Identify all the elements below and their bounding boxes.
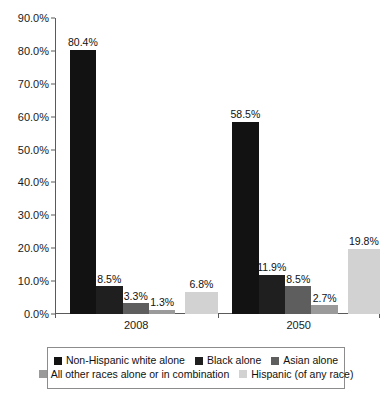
legend-row: All other races alone or in combinationH…	[55, 369, 337, 381]
legend-row: Non-Hispanic white aloneBlack aloneAsian…	[55, 355, 337, 367]
chart-legend: Non-Hispanic white aloneBlack aloneAsian…	[47, 347, 345, 389]
bar[interactable]: 2.7%	[311, 305, 337, 314]
y-tick-label: 50.0%	[18, 144, 55, 155]
y-tick-label: 90.0%	[18, 13, 55, 24]
bar-value-label: 80.4%	[68, 37, 98, 48]
bar-value-label: 58.5%	[230, 109, 260, 120]
legend-item[interactable]: Asian alone	[271, 355, 338, 367]
y-tick-label: 10.0%	[18, 276, 55, 287]
bar-value-label: 1.3%	[150, 297, 174, 308]
bar-slot: 1.3%	[149, 18, 175, 314]
legend-item[interactable]: Hispanic (of any race)	[239, 369, 353, 381]
x-tick-mark	[55, 314, 56, 318]
bar-value-label: 11.9%	[257, 262, 286, 273]
bar-value-label: 8.5%	[286, 274, 310, 285]
bar-chart: 90.0%80.0%70.0%60.0%50.0%40.0%30.0%20.0%…	[0, 0, 392, 407]
y-tick-label: 40.0%	[18, 177, 55, 188]
x-category-label-2050: 2050	[218, 314, 381, 336]
bar[interactable]: 8.5%	[96, 286, 122, 314]
bar-slot: 11.9%	[259, 18, 285, 314]
bar[interactable]: 80.4%	[70, 50, 96, 314]
y-tick-label: 70.0%	[18, 78, 55, 89]
bar-value-label: 6.8%	[189, 279, 213, 290]
legend-item[interactable]: All other races alone or in combination	[39, 369, 230, 381]
x-category-label-2008: 2008	[55, 314, 218, 336]
bar-slot: 8.5%	[285, 18, 311, 314]
legend-label: All other races alone or in combination	[51, 369, 230, 381]
bar-groups: 80.4%8.5%3.3%1.3%6.8%58.5%11.9%8.5%2.7%1…	[55, 18, 380, 314]
bar-slot: 19.8%	[348, 18, 380, 314]
bar-slot: 8.5%	[96, 18, 122, 314]
y-tick-label: 20.0%	[18, 243, 55, 254]
legend-label: Non-Hispanic white alone	[66, 355, 185, 367]
bar-value-label: 8.5%	[97, 274, 121, 285]
bar-slot: 6.8%	[185, 18, 217, 314]
bar[interactable]: 8.5%	[285, 286, 311, 314]
bar[interactable]: 6.8%	[185, 292, 217, 314]
legend-swatch-icon	[39, 370, 47, 378]
x-axis-categories: 20082050	[55, 314, 380, 336]
bar-slot: 58.5%	[232, 18, 258, 314]
bar-value-label: 19.8%	[349, 236, 379, 247]
bar[interactable]: 11.9%	[259, 275, 285, 314]
legend-item[interactable]: Non-Hispanic white alone	[54, 355, 185, 367]
legend-swatch-icon	[239, 370, 247, 378]
y-tick-label: 60.0%	[18, 111, 55, 122]
bar-slot: 2.7%	[311, 18, 337, 314]
bar-value-label: 2.7%	[313, 293, 337, 304]
bar-slot: 3.3%	[123, 18, 149, 314]
bar-value-label: 3.3%	[124, 291, 148, 302]
y-tick-label: 30.0%	[18, 210, 55, 221]
legend-item[interactable]: Black alone	[195, 355, 261, 367]
bar-group-2008: 80.4%8.5%3.3%1.3%6.8%	[55, 18, 218, 314]
legend-swatch-icon	[195, 357, 203, 365]
legend-label: Black alone	[207, 355, 261, 367]
x-tick-mark	[218, 314, 219, 318]
bar-group-2050: 58.5%11.9%8.5%2.7%19.8%	[218, 18, 381, 314]
bar[interactable]: 58.5%	[232, 122, 258, 314]
bar-slot: 80.4%	[70, 18, 96, 314]
legend-label: Hispanic (of any race)	[251, 369, 353, 381]
bar[interactable]: 19.8%	[348, 249, 380, 314]
legend-label: Asian alone	[283, 355, 338, 367]
legend-swatch-icon	[271, 357, 279, 365]
y-tick-label: 80.0%	[18, 45, 55, 56]
x-tick-mark	[379, 314, 380, 318]
legend-swatch-icon	[54, 357, 62, 365]
bar[interactable]: 3.3%	[123, 303, 149, 314]
